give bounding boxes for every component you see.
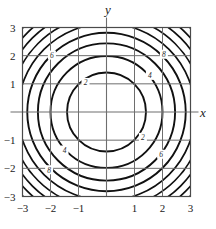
contour-label: 8 [162,50,166,59]
y-tick-label: −3 [4,191,16,203]
y-tick-label: −2 [4,162,16,174]
contour-label: 6 [50,51,54,60]
y-tick-label: −1 [4,134,16,146]
figure-background [0,0,216,229]
y-tick-label: 2 [10,50,16,62]
x-tick-label: −1 [73,202,85,214]
x-tick-label: 2 [160,202,166,214]
contour-plot-figure: 24682468 −3−2−1123321−1−2−3 y x [0,0,216,229]
contour-label: 2 [141,133,145,142]
contour-label: 4 [148,71,152,80]
contour-label: 2 [84,78,88,87]
x-tick-label: −3 [17,202,29,214]
contour-plot-svg: 24682468 −3−2−1123321−1−2−3 y x [0,0,216,229]
x-axis-title: x [199,105,206,120]
x-tick-label: 3 [188,202,194,214]
x-tick-label: 1 [132,202,138,214]
contour-label: 8 [47,166,51,175]
y-axis-title: y [103,2,111,17]
contour-label: 4 [63,146,67,155]
contour-label: 6 [159,150,163,159]
y-tick-label: 1 [10,78,16,90]
x-tick-label: −2 [45,202,57,214]
y-tick-label: 3 [10,22,16,34]
